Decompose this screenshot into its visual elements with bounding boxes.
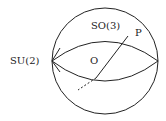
label-so3: SO(3): [91, 20, 120, 31]
diagram-canvas: SO(3) SU(2) O P: [0, 0, 166, 121]
equator-lower-arc: [52, 61, 158, 81]
label-su2: SU(2): [10, 55, 40, 66]
label-point: P: [135, 27, 142, 38]
equator-upper-arc: [52, 42, 158, 62]
label-origin: O: [90, 55, 98, 66]
